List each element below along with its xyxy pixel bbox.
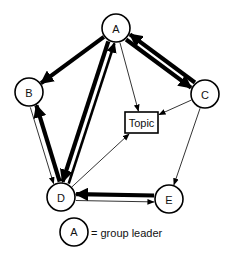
node-label: A bbox=[112, 23, 120, 35]
topic-box: Topic bbox=[125, 112, 158, 133]
nodes-layer: ABCDE bbox=[15, 14, 219, 213]
communication-network-diagram: ABCDE Topic A = group leader bbox=[0, 0, 231, 260]
node-e: E bbox=[155, 185, 183, 213]
node-label: E bbox=[165, 194, 172, 206]
edge-d-to-topic bbox=[72, 134, 129, 187]
edge-c-to-topic bbox=[159, 100, 191, 115]
edge-d-to-b bbox=[36, 105, 59, 181]
edge-d-to-e bbox=[76, 201, 154, 202]
edge-e-to-d bbox=[76, 194, 154, 195]
edge-c-to-e bbox=[174, 108, 200, 185]
edges-layer bbox=[30, 34, 200, 202]
legend-leader-label: A bbox=[70, 226, 78, 238]
edge-a-to-b bbox=[41, 37, 104, 83]
edge-a-to-topic bbox=[120, 43, 138, 112]
node-label: B bbox=[25, 87, 32, 99]
legend-text: = group leader bbox=[91, 227, 163, 239]
edge-c-to-a bbox=[130, 34, 195, 82]
legend: A = group leader bbox=[60, 218, 163, 246]
node-b: B bbox=[15, 78, 43, 106]
node-c: C bbox=[191, 80, 219, 108]
node-label: D bbox=[57, 192, 65, 204]
topic-label: Topic bbox=[129, 117, 155, 129]
node-d: D bbox=[47, 183, 75, 211]
edge-d-to-a bbox=[69, 43, 115, 183]
node-a: A bbox=[102, 14, 130, 42]
edge-a-to-c bbox=[126, 40, 191, 88]
node-label: C bbox=[201, 89, 209, 101]
